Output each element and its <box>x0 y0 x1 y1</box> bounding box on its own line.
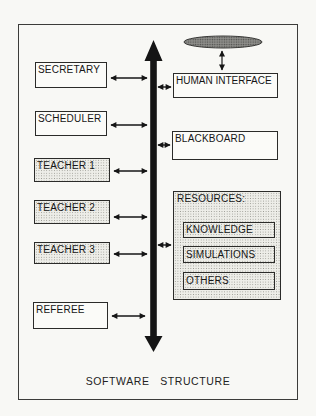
node-secretary-label: SECRETARY <box>36 63 106 75</box>
node-human-interface: HUMAN INTERFACE <box>173 73 278 98</box>
figure-caption: SOFTWARE STRUCTURE <box>18 375 298 387</box>
node-others-label: OTHERS <box>184 273 274 288</box>
node-blackboard: BLACKBOARD <box>172 131 278 160</box>
group-resources-title: RESOURCES: <box>174 192 280 204</box>
node-secretary: SECRETARY <box>35 62 107 88</box>
node-teacher-1: TEACHER 1 <box>34 158 110 182</box>
node-knowledge: KNOWLEDGE <box>183 222 275 238</box>
node-teacher-3-label: TEACHER 3 <box>35 243 109 255</box>
node-simulations-label: SIMULATIONS <box>184 247 274 262</box>
node-others: OTHERS <box>183 272 275 290</box>
scanned-figure-page: SECRETARY SCHEDULER TEACHER 1 TEACHER 2 … <box>0 0 316 416</box>
node-referee-label: REFEREE <box>34 303 107 315</box>
node-human-interface-label: HUMAN INTERFACE <box>174 74 277 86</box>
node-teacher-2: TEACHER 2 <box>34 200 110 224</box>
node-teacher-3: TEACHER 3 <box>34 242 110 264</box>
node-teacher-2-label: TEACHER 2 <box>35 201 109 213</box>
user-ellipse-icon <box>184 36 262 48</box>
node-referee: REFEREE <box>33 302 108 329</box>
node-simulations: SIMULATIONS <box>183 246 275 263</box>
node-blackboard-label: BLACKBOARD <box>173 132 277 144</box>
node-scheduler: SCHEDULER <box>35 111 107 136</box>
node-scheduler-label: SCHEDULER <box>36 112 106 124</box>
node-teacher-1-label: TEACHER 1 <box>35 159 109 171</box>
node-knowledge-label: KNOWLEDGE <box>184 223 274 237</box>
